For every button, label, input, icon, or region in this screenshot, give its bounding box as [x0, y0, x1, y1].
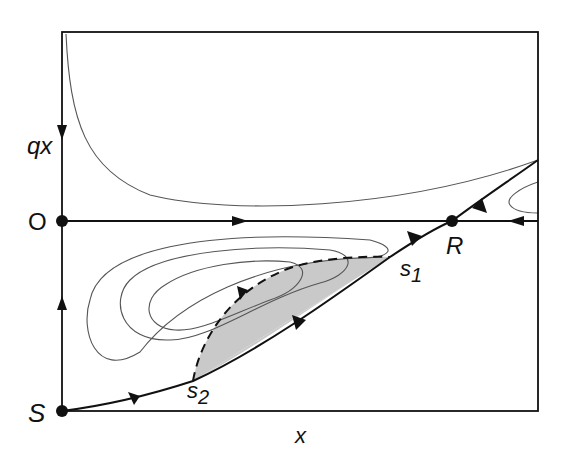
label-S: S: [28, 398, 46, 428]
arrow-left-axis-down: [57, 125, 67, 140]
label-O: O: [28, 208, 47, 235]
arrow-horizontal-right: [232, 216, 248, 226]
fixed-point-R: [446, 215, 458, 227]
x-axis-label: x: [294, 423, 307, 448]
arrow-right-edge-left: [508, 216, 524, 226]
y-axis-label: qx: [27, 132, 53, 159]
phase-portrait-figure: qx O R S x s1 s2: [0, 0, 564, 470]
arrow-left-axis-up: [57, 296, 67, 310]
phase-portrait-svg: qx O R S x s1 s2: [0, 0, 564, 470]
label-s2: s2: [187, 378, 209, 408]
label-s1: s1: [400, 256, 422, 286]
fixed-point-O: [56, 215, 68, 227]
fixed-point-S: [56, 405, 68, 417]
trajectory-upper: [66, 34, 538, 206]
label-R: R: [446, 232, 463, 259]
trajectory-right: [509, 182, 538, 213]
